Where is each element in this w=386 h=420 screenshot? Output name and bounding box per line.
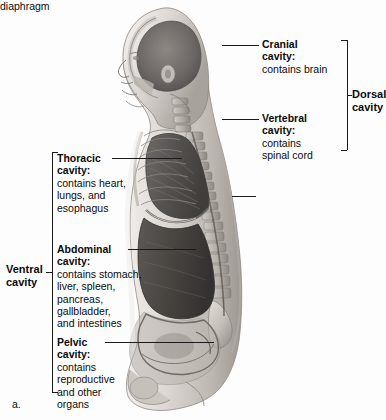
vertebral-body: contains spinal cord xyxy=(262,137,380,162)
label-vertebral-cavity: Vertebral cavity: contains spinal cord xyxy=(262,112,380,162)
abdominal-heading-line1: Abdominal xyxy=(57,243,157,255)
thoracic-heading-line2: cavity: xyxy=(57,164,153,176)
vertebral-heading-line2: cavity: xyxy=(262,124,380,136)
label-abdominal-cavity: Abdominal cavity: contains stomach, live… xyxy=(57,243,157,330)
ventral-line1: Ventral xyxy=(6,263,52,276)
label-dorsal-cavity: Dorsal cavity xyxy=(352,88,386,114)
abdominal-body: contains stomach, liver, spleen, pancrea… xyxy=(57,268,157,330)
abdominal-heading-line2: cavity: xyxy=(57,255,157,267)
pelvic-heading-line1: Pelvic xyxy=(57,336,153,348)
label-thoracic-cavity: Thoracic cavity: contains heart, lungs, … xyxy=(57,152,153,214)
cranial-heading-line2: cavity: xyxy=(262,50,380,62)
cranial-heading-line1: Cranial xyxy=(262,38,380,50)
dorsal-line1: Dorsal xyxy=(352,88,386,101)
ventral-line2: cavity xyxy=(6,276,52,289)
label-pelvic-cavity: Pelvic cavity: contains reproductive and… xyxy=(57,336,153,410)
pelvic-heading-line2: cavity: xyxy=(57,348,153,360)
cranial-body: contains brain xyxy=(262,63,380,75)
thoracic-body: contains heart, lungs, and esophagus xyxy=(57,177,153,214)
figure-caption: a. xyxy=(12,398,21,410)
pelvic-body: contains reproductive and other organs xyxy=(57,361,153,411)
dorsal-line2: cavity xyxy=(352,101,386,114)
label-ventral-cavity: Ventral cavity xyxy=(6,263,52,289)
head-profile xyxy=(118,8,208,132)
label-cranial-cavity: Cranial cavity: contains brain xyxy=(262,38,380,75)
thoracic-heading-line1: Thoracic xyxy=(57,152,153,164)
